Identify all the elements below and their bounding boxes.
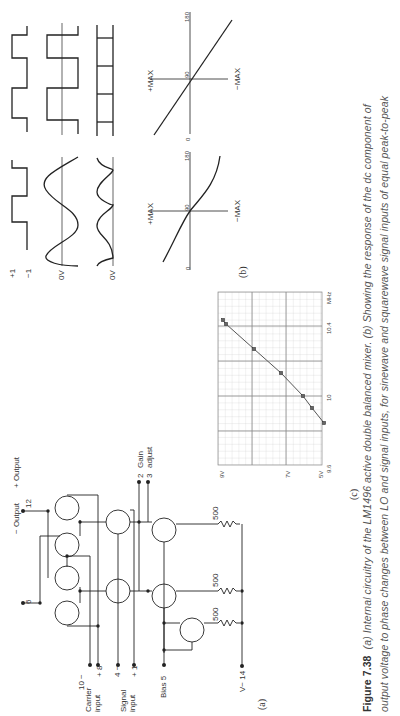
- gain-adjust-label: Gain adjust: [136, 432, 154, 468]
- figure-caption-line2: output voltage to phase changes between …: [378, 96, 390, 712]
- plus-output-pin: 12: [24, 499, 33, 508]
- bias-pin-label: Bias 5: [159, 676, 168, 698]
- minus-output-pin: 6: [24, 600, 33, 604]
- resistor-label-2: 500: [211, 574, 220, 587]
- figure-caption-line1: Figure 7.38 (a) Internal circuitry of th…: [361, 104, 373, 712]
- caption-text-1: (a) Internal circuitry of the LM1496 act…: [361, 104, 373, 649]
- plus-output-label: + Output: [12, 457, 21, 488]
- resistor-label-3: 500: [211, 608, 220, 621]
- vminus-pin-label: V− 14: [238, 671, 247, 692]
- gain-pin-2: 2: [136, 474, 145, 478]
- gain-pin-3: 3: [145, 474, 154, 478]
- signal-minus-pin: 4 −: [113, 666, 122, 677]
- figure-number: Figure 7.38: [361, 655, 373, 712]
- signal-plus-pin: + 1: [130, 666, 139, 677]
- carrier-input-label: Carrier input: [84, 682, 102, 712]
- panel-a-circuit: [0, 0, 400, 716]
- carrier-plus-pin: + 8: [95, 666, 104, 677]
- signal-input-label: Signal input: [119, 682, 137, 712]
- panel-a-label: (a): [256, 699, 267, 710]
- minus-output-label: − Output: [12, 503, 21, 534]
- resistor-label-1: 500: [211, 507, 220, 520]
